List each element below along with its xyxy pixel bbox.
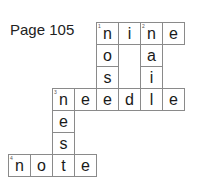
crossword-cell[interactable]: i bbox=[118, 22, 141, 45]
cell-letter: e bbox=[75, 90, 96, 110]
cell-letter: e bbox=[53, 112, 74, 132]
crossword-cell[interactable]: e bbox=[162, 88, 185, 111]
cell-letter: e bbox=[163, 90, 184, 110]
crossword-cell[interactable]: e bbox=[162, 22, 185, 45]
cell-letter: i bbox=[119, 24, 140, 44]
cell-letter: a bbox=[141, 46, 162, 66]
cell-letter: n bbox=[97, 24, 118, 44]
crossword-cell[interactable]: o bbox=[96, 44, 119, 67]
cell-letter: o bbox=[31, 156, 52, 176]
crossword-cell[interactable]: 4 n bbox=[8, 154, 31, 177]
cell-letter: n bbox=[53, 90, 74, 110]
crossword-cell[interactable]: 2 n bbox=[140, 22, 163, 45]
crossword-cell[interactable]: e bbox=[74, 154, 97, 177]
cell-letter: n bbox=[141, 24, 162, 44]
cell-letter: l bbox=[141, 90, 162, 110]
crossword-cell[interactable]: e bbox=[74, 88, 97, 111]
page-label: Page 105 bbox=[10, 21, 74, 38]
cell-letter: e bbox=[75, 156, 96, 176]
crossword-cell[interactable]: 3 n bbox=[52, 88, 75, 111]
crossword-cell[interactable]: s bbox=[52, 132, 75, 155]
crossword-cell[interactable]: d bbox=[118, 88, 141, 111]
crossword-cell[interactable]: a bbox=[140, 44, 163, 67]
crossword-cell[interactable]: e bbox=[96, 88, 119, 111]
cell-letter: e bbox=[97, 90, 118, 110]
cell-letter: s bbox=[97, 68, 118, 88]
cell-letter: n bbox=[9, 156, 30, 176]
crossword-cell[interactable]: o bbox=[30, 154, 53, 177]
cell-letter: o bbox=[97, 46, 118, 66]
crossword-cell[interactable]: l bbox=[140, 88, 163, 111]
cell-letter: d bbox=[119, 90, 140, 110]
cell-letter: e bbox=[163, 24, 184, 44]
crossword-cell[interactable]: s bbox=[96, 66, 119, 89]
crossword-cell[interactable]: 1 n bbox=[96, 22, 119, 45]
crossword-cell[interactable]: i bbox=[140, 66, 163, 89]
cell-letter: i bbox=[141, 68, 162, 88]
cell-letter: s bbox=[53, 134, 74, 154]
cell-letter: t bbox=[53, 156, 74, 176]
crossword-cell[interactable]: t bbox=[52, 154, 75, 177]
crossword-cell[interactable]: e bbox=[52, 110, 75, 133]
